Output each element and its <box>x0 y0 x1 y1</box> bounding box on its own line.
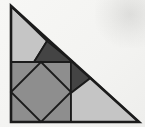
triangle-dissection-diagram <box>0 0 145 127</box>
figure-canvas <box>0 0 145 127</box>
lower-right-light-quad <box>71 78 139 122</box>
